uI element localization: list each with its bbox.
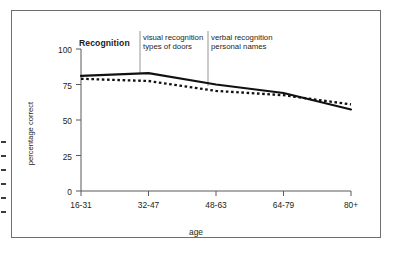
x-axis-title: age [12,227,380,237]
x-tick-label-64-79: 64-79 [259,200,309,210]
y-tick-label-0: 0 [42,187,72,197]
chart-title: Recognition [79,38,130,48]
callout-visual-line1: visual recognition [143,33,203,42]
x-tick-label-32-47: 32-47 [124,200,174,210]
y-tick-label-50: 50 [42,116,72,126]
callout-verbal-recognition: verbal recognition personal names [211,33,273,52]
callout-verbal-line1: verbal recognition [211,33,273,42]
y-axis-title: percentage correct [26,94,35,174]
callout-verbal-line2: personal names [211,42,273,51]
callout-visual-recognition: visual recognition types of doors [143,33,203,52]
page-edge-tick [1,197,6,199]
figure-frame: Recognition visual recognition types of … [11,10,381,238]
page-edge-tick [1,183,6,185]
page-edge-tick [1,141,6,143]
page-edge-tick [1,211,6,213]
page-edge-tick [1,169,6,171]
callout-visual-line2: types of doors [143,42,203,51]
x-tick-label-80plus: 80+ [326,200,376,210]
y-tick-label-25: 25 [42,152,72,162]
page-edge-tick [1,155,6,157]
y-tick-label-100: 100 [42,45,72,55]
x-tick-label-48-63: 48-63 [191,200,241,210]
x-tick-label-16-31: 16-31 [56,200,106,210]
y-tick-label-75: 75 [42,81,72,91]
plot-area: Recognition visual recognition types of … [12,11,380,237]
